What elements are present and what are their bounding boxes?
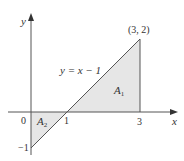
y-axis-label: y bbox=[20, 15, 26, 27]
line-equation-label: y = x − 1 bbox=[59, 64, 101, 76]
y-axis-arrow-icon bbox=[28, 13, 34, 21]
tick-label-ym1: −1 bbox=[18, 142, 29, 153]
point-label: (3, 2) bbox=[128, 24, 150, 36]
tick-label-x1: 1 bbox=[64, 115, 69, 126]
x-axis-label: x bbox=[171, 115, 177, 127]
origin-label: 0 bbox=[21, 115, 26, 126]
area-diagram: y x 0 1 3 −1 (3, 2) y = x − 1 A1 A2 bbox=[0, 0, 184, 161]
tick-label-x3: 3 bbox=[137, 116, 142, 127]
